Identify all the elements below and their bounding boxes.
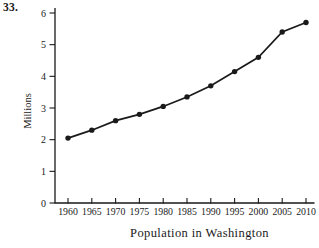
data-point bbox=[65, 135, 70, 140]
y-tick-label: 6 bbox=[41, 8, 46, 19]
y-tick-label: 1 bbox=[41, 166, 46, 177]
y-tick-label: 3 bbox=[41, 103, 46, 114]
x-tick-label: 2005 bbox=[272, 206, 292, 217]
data-point bbox=[232, 69, 237, 74]
y-tick-label: 0 bbox=[41, 198, 46, 209]
data-point bbox=[89, 127, 94, 132]
x-tick-label: 1960 bbox=[58, 206, 78, 217]
y-tick-label: 5 bbox=[41, 39, 46, 50]
data-point bbox=[137, 112, 142, 117]
series-line bbox=[68, 23, 306, 139]
x-tick-label: 1965 bbox=[82, 206, 102, 217]
chart-svg: 0123456196019651970197519801985199019952… bbox=[0, 0, 319, 248]
data-point bbox=[161, 104, 166, 109]
x-tick-label: 2000 bbox=[249, 206, 269, 217]
data-point bbox=[208, 83, 213, 88]
x-tick-label: 1970 bbox=[106, 206, 126, 217]
x-tick-label: 2010 bbox=[296, 206, 316, 217]
chart-caption: Population in Washington bbox=[92, 226, 307, 241]
y-tick-label: 4 bbox=[41, 71, 46, 82]
data-point bbox=[256, 55, 261, 60]
data-point bbox=[280, 29, 285, 34]
x-tick-label: 1980 bbox=[153, 206, 173, 217]
data-point bbox=[113, 118, 118, 123]
page: { "exercise_number": "33.", "chart_data"… bbox=[0, 0, 319, 248]
axes bbox=[55, 8, 315, 203]
data-point bbox=[184, 94, 189, 99]
x-tick-label: 1975 bbox=[130, 206, 150, 217]
x-tick-label: 1990 bbox=[201, 206, 221, 217]
x-tick-label: 1995 bbox=[225, 206, 245, 217]
x-tick-label: 1985 bbox=[177, 206, 197, 217]
y-tick-label: 2 bbox=[41, 134, 46, 145]
data-point bbox=[303, 20, 308, 25]
